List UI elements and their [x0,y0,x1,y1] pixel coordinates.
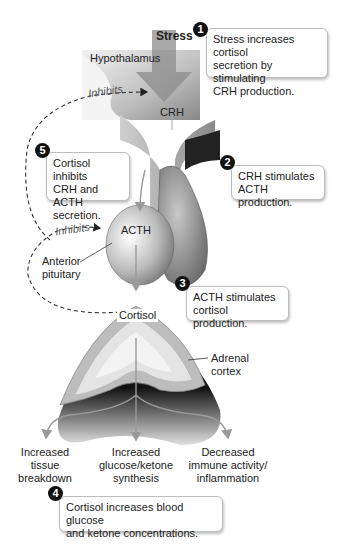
step-line: CRH stimulates [238,170,318,183]
effect-line: inflammation [186,472,270,485]
effect-line: synthesis [96,472,176,485]
effect-line: immune activity/ [186,459,270,472]
effect-line: Decreased [186,446,270,459]
step-line: CRH production. [213,85,321,98]
step-line: secretion by stimulating [213,59,321,85]
effect-line: Increased [15,446,75,459]
step-line: Cortisol increases blood glucose [66,501,216,527]
adrenal-cortex-label: Adrenal cortex [211,352,249,378]
crh-label: CRH [160,106,184,119]
stress-label: Stress [156,30,193,43]
effect-decreased-immune-activity: Decreased immune activity/ inflammation [186,446,270,485]
step-line: ACTH stimulates [193,291,282,304]
effect-tissue-breakdown: Increased tissue breakdown [15,446,75,485]
anterior-pituitary-line-2: pituitary [42,268,81,281]
effect-line: breakdown [15,472,75,485]
effect-line: Increased [96,446,176,459]
step-line: Stress increases cortisol [213,33,321,59]
anterior-pituitary-line-1: Anterior [42,255,81,268]
step-1-callout: Stress increases cortisol secretion by s… [206,28,328,78]
step-1-badge: 1 [193,22,208,37]
adrenal-cortex-line-1: Adrenal [211,352,249,365]
step-5-callout: Cortisol inhibits CRH and ACTH secretion… [46,152,130,201]
step-line: and ketone concentrations. [66,527,216,540]
effect-line: tissue [15,459,75,472]
step-2-badge: 2 [220,155,235,170]
step-2-callout: CRH stimulates ACTH production. [231,165,325,200]
effect-line: glucose/ketone [96,459,176,472]
step-3-callout: ACTH stimulates cortisol production. [186,286,289,321]
anterior-pituitary-label: Anterior pituitary [42,255,81,281]
step-4-badge: 4 [48,486,63,501]
step-line: ACTH production. [238,183,318,209]
step-4-callout: Cortisol increases blood glucose and ket… [59,496,223,532]
step-line: secretion. [53,209,123,222]
hypothalamus-label: Hypothalamus [90,52,160,65]
step-line: Cortisol inhibits [53,157,123,183]
adrenal-cortex-line-2: cortex [211,365,249,378]
step-5-badge: 5 [35,143,50,158]
cortisol-label: Cortisol [117,309,158,322]
acth-label: ACTH [121,224,151,237]
step-line: CRH and ACTH [53,183,123,209]
step-line: cortisol production. [193,304,282,330]
step-3-badge: 3 [175,276,190,291]
effect-glucose-ketone-synthesis: Increased glucose/ketone synthesis [96,446,176,485]
